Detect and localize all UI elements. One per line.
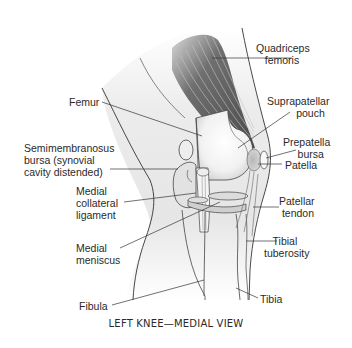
figure-caption: LEFT KNEE—MEDIAL VIEW xyxy=(0,318,352,329)
label-suprapatellar-pouch: Suprapatellar pouch xyxy=(267,95,329,119)
label-medial-collateral-ligament: Medial collateral ligament xyxy=(76,185,118,221)
label-tibial-tuberosity: Tibial tuberosity xyxy=(264,235,310,259)
label-semimembranosus-bursa: Semimembranosus bursa (synovial cavity d… xyxy=(24,142,114,178)
label-medial-meniscus: Medial meniscus xyxy=(76,242,120,266)
label-quadriceps-femoris: Quadriceps femoris xyxy=(256,42,310,66)
label-prepatella-bursa: Prepatella bursa xyxy=(283,136,330,160)
knee-diagram: Quadriceps femoris Femur Suprapatellar p… xyxy=(0,0,352,348)
label-fibula: Fibula xyxy=(79,300,108,312)
label-tibia: Tibia xyxy=(260,293,282,305)
label-patella: Patella xyxy=(285,159,317,171)
patella-bone xyxy=(247,149,268,171)
label-patellar-tendon: Patellar tendon xyxy=(279,195,315,219)
label-femur: Femur xyxy=(69,96,99,108)
